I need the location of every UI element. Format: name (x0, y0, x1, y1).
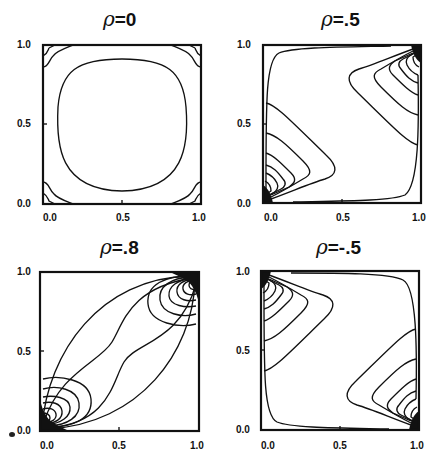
y-tick-0.0: 0.0 (17, 425, 31, 436)
contour-plot-rho-0.8 (40, 272, 199, 431)
x-tick-0.0: 0.0 (40, 440, 54, 451)
x-tick-0.0: 0.0 (43, 212, 57, 223)
x-tick-1.0: 1.0 (190, 440, 204, 451)
x-tick-0.5: 0.5 (116, 212, 130, 223)
y-tick-0.5: 0.5 (17, 346, 31, 357)
panel-title: ρ=.8 (100, 235, 139, 259)
rho-symbol: ρ (103, 7, 115, 31)
x-tick-0.5: 0.5 (112, 440, 126, 451)
rho-value: =.5 (333, 9, 360, 30)
rho-value: =0 (115, 9, 137, 30)
contour-plot-rho-0.5 (263, 45, 421, 203)
y-tick-1.0: 1.0 (237, 39, 251, 50)
rho-value: =-.5 (328, 237, 361, 258)
x-tick-0.0: 0.0 (264, 212, 278, 223)
rho-value: =.8 (112, 237, 139, 258)
y-tick-0.0: 0.0 (236, 424, 250, 435)
y-tick-1.0: 1.0 (236, 266, 250, 277)
y-tick-0.0: 0.0 (17, 198, 31, 209)
x-tick-0.0: 0.0 (261, 440, 275, 451)
panel-title: ρ=-.5 (316, 235, 361, 259)
panel-title: ρ=0 (103, 7, 136, 31)
rho-symbol: ρ (321, 7, 333, 31)
x-tick-1.0: 1.0 (412, 212, 426, 223)
y-tick-1.0: 1.0 (17, 39, 31, 50)
scan-speck (9, 432, 15, 437)
y-tick-0.5: 0.5 (17, 118, 31, 129)
y-tick-0.0: 0.0 (237, 198, 251, 209)
panel-title: ρ=.5 (321, 7, 360, 31)
x-tick-1.0: 1.0 (410, 440, 424, 451)
y-tick-1.0: 1.0 (17, 266, 31, 277)
x-tick-1.0: 1.0 (192, 212, 206, 223)
x-tick-0.5: 0.5 (333, 440, 347, 451)
contour-plot-rho-0 (43, 45, 201, 204)
y-tick-0.5: 0.5 (237, 118, 251, 129)
rho-symbol: ρ (316, 235, 328, 259)
x-tick-0.5: 0.5 (336, 212, 350, 223)
contour-plot-rho-neg0.5 (261, 271, 419, 430)
rho-symbol: ρ (100, 235, 112, 259)
y-tick-0.5: 0.5 (236, 345, 250, 356)
